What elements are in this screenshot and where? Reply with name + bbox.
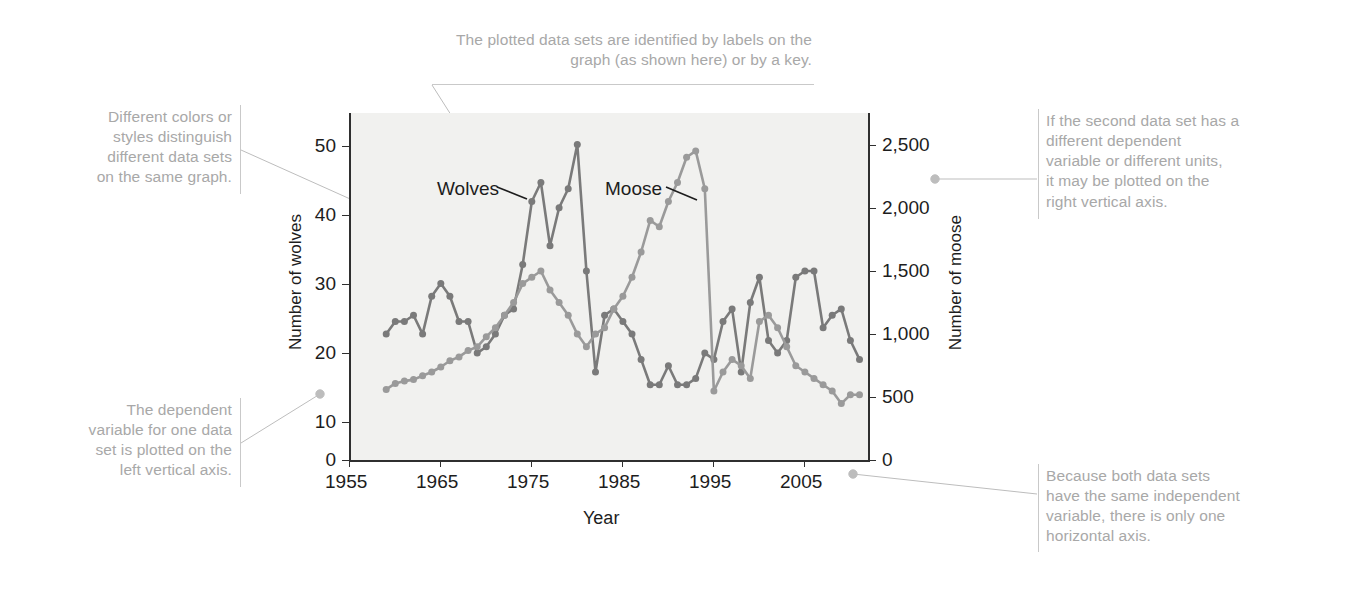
y-axis-right xyxy=(868,113,870,461)
data-point xyxy=(537,268,544,275)
y-axis-left-tick xyxy=(342,422,349,423)
data-point xyxy=(428,293,435,300)
y-axis-left-tick xyxy=(342,215,349,216)
y-axis-right-tick xyxy=(869,334,876,335)
x-axis-tick-label: 1975 xyxy=(507,471,549,493)
series-label-moose: Moose xyxy=(605,178,662,200)
data-point xyxy=(747,375,754,382)
y-axis-right-tick-label: 1,500 xyxy=(882,260,930,282)
x-axis-tick xyxy=(804,461,805,467)
data-point xyxy=(537,179,544,186)
x-axis-tick-label: 2005 xyxy=(780,471,822,493)
x-axis xyxy=(349,460,870,462)
data-point xyxy=(838,305,845,312)
data-point xyxy=(729,356,736,363)
data-point xyxy=(783,343,790,350)
y-axis-left-tick-label: 0 xyxy=(300,449,336,471)
x-axis-tick xyxy=(531,461,532,467)
y-axis-right-tick xyxy=(869,208,876,209)
data-point xyxy=(774,324,781,331)
data-point xyxy=(647,217,654,224)
data-point xyxy=(601,324,608,331)
data-point xyxy=(601,312,608,319)
data-point xyxy=(547,242,554,249)
data-point xyxy=(629,331,636,338)
data-point xyxy=(820,381,827,388)
data-point xyxy=(383,386,390,393)
data-point xyxy=(437,280,444,287)
data-point xyxy=(437,364,444,371)
y-axis-left-tick xyxy=(342,146,349,147)
data-point xyxy=(465,347,472,354)
data-point xyxy=(838,400,845,407)
y-axis-left xyxy=(349,113,351,461)
series-label-wolves: Wolves xyxy=(437,178,499,200)
data-point xyxy=(638,356,645,363)
data-point xyxy=(765,312,772,319)
data-point xyxy=(446,293,453,300)
data-point xyxy=(519,261,526,268)
x-axis-tick-label: 1955 xyxy=(325,471,367,493)
y-axis-right-tick xyxy=(869,271,876,272)
data-point xyxy=(792,274,799,281)
x-axis-tick-label: 1965 xyxy=(416,471,458,493)
data-point xyxy=(510,299,517,306)
data-point xyxy=(410,376,417,383)
data-point xyxy=(774,350,781,357)
data-point xyxy=(474,343,481,350)
data-point xyxy=(792,362,799,369)
data-point xyxy=(801,369,808,376)
data-point xyxy=(701,185,708,192)
data-point xyxy=(410,312,417,319)
data-point xyxy=(665,198,672,205)
y-axis-left-tick xyxy=(342,460,349,461)
data-point xyxy=(392,318,399,325)
data-point xyxy=(419,331,426,338)
data-point xyxy=(565,312,572,319)
y-axis-right-tick-label: 2,500 xyxy=(882,134,930,156)
y-axis-right-tick xyxy=(869,145,876,146)
data-point xyxy=(847,337,854,344)
data-point xyxy=(856,391,863,398)
data-point xyxy=(456,353,463,360)
data-point xyxy=(683,154,690,161)
data-point xyxy=(383,331,390,338)
y-axis-left-title: Number of wolves xyxy=(286,214,306,350)
data-point xyxy=(738,362,745,369)
chart-svg xyxy=(0,0,1353,601)
y-axis-right-tick-label: 1,000 xyxy=(882,323,930,345)
data-point xyxy=(492,324,499,331)
data-point xyxy=(446,357,453,364)
x-axis-tick xyxy=(440,461,441,467)
data-point xyxy=(765,337,772,344)
x-axis-title: Year xyxy=(583,508,619,529)
line-chart: 0 10 20 30 40 50 0 500 1,000 1,500 2,000… xyxy=(0,0,1353,601)
data-point xyxy=(638,249,645,256)
data-point xyxy=(720,369,727,376)
data-point xyxy=(811,268,818,275)
data-point xyxy=(801,268,808,275)
data-point xyxy=(856,356,863,363)
data-point xyxy=(483,333,490,340)
y-axis-right-title: Number of moose xyxy=(946,215,966,350)
data-point xyxy=(428,369,435,376)
y-axis-right-tick-label: 0 xyxy=(882,449,893,471)
data-point xyxy=(619,318,626,325)
data-point xyxy=(720,318,727,325)
data-point xyxy=(829,312,836,319)
y-axis-right-tick xyxy=(869,397,876,398)
data-point xyxy=(519,280,526,287)
data-point xyxy=(820,324,827,331)
data-point xyxy=(547,286,554,293)
y-axis-right-tick-label: 500 xyxy=(882,386,914,408)
data-point xyxy=(483,343,490,350)
data-point xyxy=(574,141,581,148)
data-point xyxy=(419,372,426,379)
data-point xyxy=(583,268,590,275)
data-point xyxy=(710,388,717,395)
data-point xyxy=(610,305,617,312)
data-point xyxy=(474,350,481,357)
data-point xyxy=(528,274,535,281)
data-point xyxy=(528,198,535,205)
y-axis-right-tick xyxy=(869,460,876,461)
